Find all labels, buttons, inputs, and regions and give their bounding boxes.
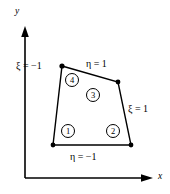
edge-label-xi-positive-one: ξ = 1 (128, 104, 148, 114)
node-number-2: 2 (106, 124, 120, 138)
y-axis-arrowhead-icon (21, 26, 29, 37)
edge-label-xi-negative-one: ξ = −1 (16, 61, 42, 71)
y-axis-label: y (15, 7, 19, 17)
edge-label-eta-positive-one: η = 1 (86, 59, 107, 69)
x-axis-arrowhead-icon (141, 174, 153, 182)
figure-quadrilateral-element: y x ξ = −1 η = 1 ξ = 1 η = −1 1 2 3 4 (0, 0, 170, 194)
node-number-4: 4 (65, 73, 79, 87)
node-number-1: 1 (61, 124, 75, 138)
node-number-3: 3 (86, 88, 100, 102)
edge-label-eta-negative-one: η = −1 (70, 152, 97, 162)
corner-node-dot-1 (51, 143, 56, 148)
x-axis-label: x (158, 172, 162, 182)
corner-node-dot-4 (59, 63, 64, 68)
figure-vector-graphics (0, 0, 170, 194)
corner-node-dot-3 (116, 80, 121, 85)
corner-node-dot-2 (129, 143, 134, 148)
